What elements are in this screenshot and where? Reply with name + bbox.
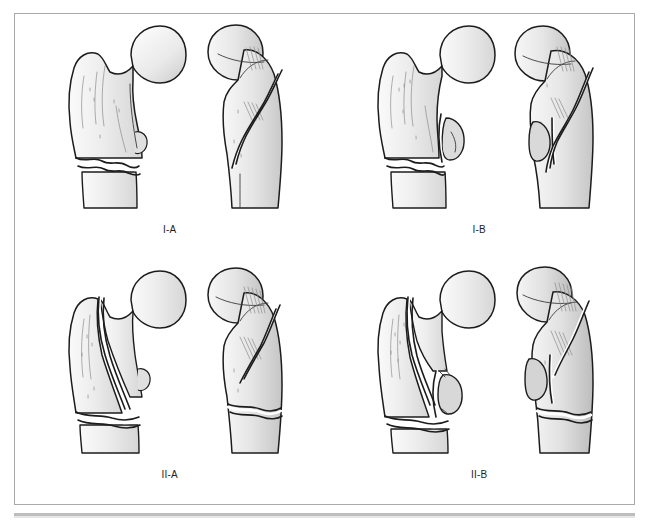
figure-frame: I-A <box>14 13 635 505</box>
fracture-type-panel-ii-a: II-A <box>15 259 325 504</box>
femur-lateral-view-i-a <box>194 14 302 210</box>
figure-root: I-A <box>0 0 652 527</box>
views-row <box>325 14 635 210</box>
femur-anterior-view-ii-a <box>38 259 190 455</box>
fracture-type-panel-ii-b: II-B <box>325 259 635 504</box>
views-row <box>15 259 325 455</box>
fracture-type-panel-i-b: I-B <box>325 14 635 259</box>
fracture-type-label: II-B <box>471 469 487 480</box>
fracture-type-label: II-A <box>162 469 178 480</box>
views-row <box>325 259 635 455</box>
femur-lateral-view-ii-a <box>194 259 302 455</box>
femur-lateral-view-i-b <box>503 14 611 210</box>
femur-anterior-view-i-b <box>347 14 499 210</box>
fracture-type-label: I-A <box>163 224 176 235</box>
femur-anterior-view-ii-b <box>347 259 499 455</box>
femur-lateral-view-ii-b <box>503 259 611 455</box>
bottom-separator-shadow <box>14 516 635 518</box>
views-row <box>15 14 325 210</box>
panel-grid: I-A <box>15 14 634 504</box>
femur-anterior-view-i-a <box>38 14 190 210</box>
fracture-type-panel-i-a: I-A <box>15 14 325 259</box>
fracture-type-label: I-B <box>473 224 486 235</box>
